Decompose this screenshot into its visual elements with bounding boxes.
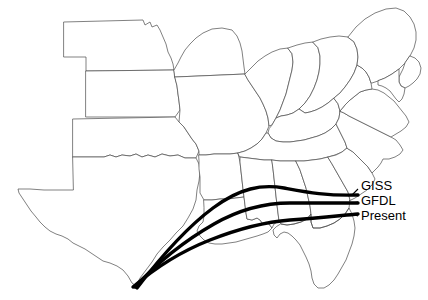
state-texas	[18, 154, 200, 286]
curve-label-present: Present	[361, 209, 406, 222]
state-outlines-group	[18, 8, 421, 288]
curve-label-gfdl: GFDL	[361, 194, 396, 207]
state-kansas	[86, 70, 180, 117]
map-canvas	[0, 0, 428, 300]
state-nebraska	[64, 20, 174, 71]
state-iowa	[174, 28, 245, 77]
thematic-map-figure: GISS GFDL Present	[0, 0, 428, 300]
curve-label-giss: GISS	[361, 179, 392, 192]
